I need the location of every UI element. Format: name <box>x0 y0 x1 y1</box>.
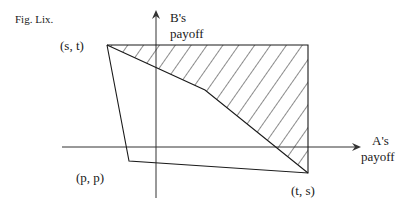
y-axis-label-line2: payoff <box>170 26 204 41</box>
x-axis-label-line1: A's <box>372 133 389 148</box>
point-label-ts: (t, s) <box>291 183 315 198</box>
x-axis-label-line2: payoff <box>361 149 395 164</box>
hatched-region <box>107 45 308 173</box>
figure-caption: Fig. Lix. <box>15 12 53 27</box>
payoff-diagram <box>0 0 408 211</box>
point-label-st: (s, t) <box>60 38 84 53</box>
point-label-pp: (p, p) <box>76 170 104 185</box>
y-axis-label-line1: B's <box>170 10 186 25</box>
